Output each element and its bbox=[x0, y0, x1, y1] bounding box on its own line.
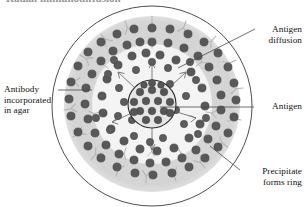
label-precipitate-forms-ring: Precipitate forms ring bbox=[262, 166, 302, 187]
label-antibody-line1: Antibody bbox=[4, 84, 51, 95]
label-antigen-line1: Antigen bbox=[272, 101, 302, 112]
label-antigen-diffusion-line1: Antigen bbox=[269, 24, 302, 35]
label-antigen-diffusion-line2: diffusion bbox=[269, 35, 302, 46]
label-precipitate-line1: Precipitate bbox=[262, 166, 302, 177]
label-antibody-incorporated-in-agar: Antibody incorporated in agar bbox=[4, 84, 51, 116]
label-antigen: Antigen bbox=[272, 101, 302, 112]
diagram-stage: Radial immunodiffusion bbox=[0, 0, 305, 207]
label-precipitate-line2: forms ring bbox=[262, 177, 302, 188]
label-antibody-line3: in agar bbox=[4, 105, 51, 116]
label-antibody-line2: incorporated bbox=[4, 95, 51, 106]
label-antigen-diffusion: Antigen diffusion bbox=[269, 24, 302, 45]
